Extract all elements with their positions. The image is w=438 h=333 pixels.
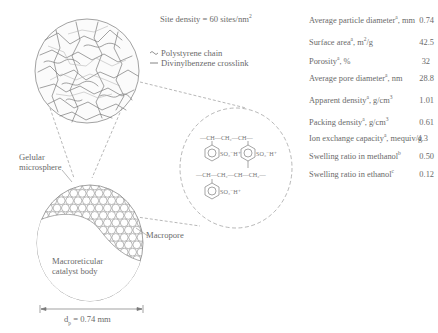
diameter-dimension — [40, 305, 143, 313]
legend-polystyrene: Polystyrene chain — [161, 48, 222, 58]
macroreticular-body-drawing — [30, 182, 170, 315]
chem-sulfonic-2: SO₃⁻H⁺ — [256, 150, 277, 157]
gelular-leader — [62, 170, 72, 182]
chem-chain-row-2: —CH—CH₂—CH—CH₂— — [196, 171, 266, 178]
chem-chain-row-1: —CH—CH₂—CH— — [200, 134, 253, 141]
site-density-label: Site density = 60 sites/nm2 — [160, 14, 252, 24]
legend-divinylbenzene: Divinylbenzene crosslink — [161, 58, 249, 68]
gelular-microsphere-label: Gelular microsphere — [19, 152, 61, 172]
particle-diameter-label: dp = 0.74 mm — [64, 314, 111, 326]
macroreticular-catalyst-label: Macroreticular catalyst body — [52, 256, 103, 276]
wavy-line-icon — [150, 52, 158, 55]
chemistry-zoom-circle — [180, 108, 292, 228]
chem-sulfonic-1: SO₃⁻H⁺ — [220, 150, 241, 157]
chem-sulfonic-3: SO₃⁻H⁺ — [220, 188, 241, 195]
macropore-label: Macropore — [146, 230, 184, 240]
gel-microsphere-drawing — [35, 19, 139, 123]
